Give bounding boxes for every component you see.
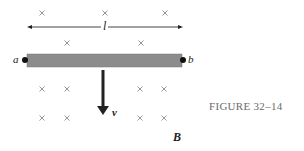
field-cross-icon xyxy=(40,116,45,121)
endpoint-a-dot xyxy=(22,57,28,63)
field-cross-icon xyxy=(139,41,144,46)
figure-32-14: a b l v B FIGURE 32–14 xyxy=(0,0,304,151)
figure-caption: FIGURE 32–14 xyxy=(209,100,283,112)
field-cross-icon xyxy=(65,116,70,121)
field-cross-icon xyxy=(138,87,143,92)
field-cross-icon xyxy=(162,116,167,121)
field-cross-icon xyxy=(65,41,70,46)
label-a: a xyxy=(13,53,19,65)
field-cross-icon xyxy=(40,11,45,16)
field-cross-icon xyxy=(163,11,168,16)
label-velocity: v xyxy=(112,106,117,118)
field-cross-icon xyxy=(162,87,167,92)
field-cross-icon xyxy=(65,87,70,92)
field-cross-icon xyxy=(103,11,108,16)
field-cross-icon xyxy=(138,116,143,121)
field-cross-icon xyxy=(40,87,45,92)
figure-diagram xyxy=(0,0,304,151)
conducting-rod xyxy=(27,54,182,67)
label-length: l xyxy=(101,19,108,34)
endpoint-b-dot xyxy=(180,57,186,63)
label-field-B: B xyxy=(173,130,181,145)
label-b: b xyxy=(188,53,194,65)
velocity-arrow-icon xyxy=(97,70,109,115)
